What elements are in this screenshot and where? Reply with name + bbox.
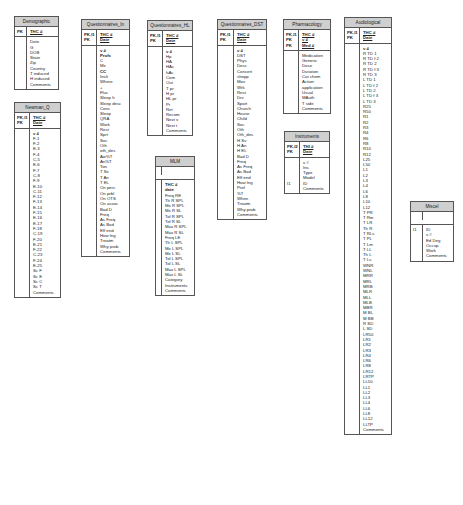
key-flag: PK	[347, 35, 358, 40]
table-keys	[411, 212, 453, 225]
table-field: Comments	[30, 82, 57, 87]
table-keys: PK,I1 PK THC # Date	[148, 31, 192, 47]
key-field: Date	[363, 35, 390, 40]
table-field: Comments	[237, 212, 265, 217]
table-title: Questionnaires_HL	[148, 21, 192, 31]
key-flag: PK	[220, 37, 232, 42]
table-field: Comments	[363, 427, 390, 432]
table-keys: PK,I1 PK THC # Date	[15, 113, 60, 129]
table-audiological[interactable]: Audiological PK,I1 PK THC # Date v #R TD…	[344, 17, 392, 435]
key-field: THC #	[30, 29, 57, 34]
table-keys: PK,I1 PK THC # Date	[82, 30, 129, 46]
table-field: Comments	[426, 253, 452, 258]
table-fields: I1 IDv #Ed DegOccupWorkComments	[411, 225, 453, 261]
table-fields: v #R TD 1R TD f 2R TD 2R TD f 3R TD 3L T…	[345, 44, 391, 435]
key-flag: PK	[150, 38, 161, 43]
table-fields: DateGDOBStateZipCountryT inducedH induce…	[15, 37, 58, 89]
table-instruments[interactable]: Instruments PK,I2 PK THI # Date I1 v #In…	[284, 131, 330, 194]
table-keys: PK,I1 PK THC # Date	[345, 28, 391, 44]
table-field: Comments	[302, 106, 329, 111]
table-field: Comments	[166, 128, 191, 133]
table-fields: v #F-1F-2E-3F-4C-5E-6F-7C-8F-9E-10C-11F-…	[15, 129, 60, 297]
table-miscel[interactable]: Miscel I1 IDv #Ed DegOccupWorkComments	[410, 201, 454, 262]
table-title: Audiological	[345, 18, 391, 28]
table-title: Miscel	[411, 202, 453, 212]
table-fields: v #ProfsCMxCCInsltWhere+FlucSleep hSleep…	[82, 46, 129, 257]
table-title: Questionnaires_In	[82, 20, 129, 30]
table-fields: v #DSTPhysDescConcertshoppMovWrkRestDrvS…	[218, 46, 266, 220]
field-flag: I1	[413, 227, 421, 232]
table-fields: v #HpHAHAchAcComOutT prH prHL prPrRetRec…	[148, 47, 192, 136]
key-field: Date	[166, 38, 191, 43]
table-fields: I1 v #InsTypeModelIDComments	[285, 158, 329, 194]
table-field: Comments	[165, 288, 193, 293]
table-demographic[interactable]: Demographic PK THC # DateGDOBStateZipCou…	[14, 16, 59, 90]
table-keys: PK,I1 PK PK THC # v # Med #	[284, 30, 330, 51]
key-flag: PK	[286, 43, 297, 48]
key-field: Date	[33, 120, 59, 125]
table-field: Comments	[33, 290, 59, 295]
key-field: Date	[100, 37, 128, 42]
key-field: Date	[237, 37, 265, 42]
table-fields: MedicationGenericDoseDurationCat chemAct…	[284, 51, 330, 113]
table-questionnaires-dst[interactable]: Questionnaires_DST PK,I1 PK THC # Date v…	[217, 19, 267, 220]
table-fields: THC #dateFreq RETh R SPLMx R SPLMx R SLT…	[156, 180, 194, 295]
table-title: MLM	[156, 157, 194, 167]
field-flag	[287, 186, 298, 191]
table-questionnaires-in[interactable]: Questionnaires_In PK,I1 PK THC # Date v …	[81, 19, 130, 257]
key-field: Date	[303, 149, 328, 154]
key-field: Med #	[302, 43, 329, 48]
table-keys	[156, 167, 194, 180]
key-flag: PK	[17, 29, 25, 34]
table-newman-q[interactable]: Newman_Q PK,I1 PK THC # Date v #F-1F-2E-…	[14, 102, 61, 298]
table-keys: PK,I1 PK THC # Date	[218, 30, 266, 46]
table-title: Demographic	[15, 17, 58, 27]
table-field: Comments	[303, 186, 328, 191]
key-flag: PK	[84, 37, 95, 42]
table-pharmacology[interactable]: Pharmacology PK,I1 PK PK THC # v # Med #…	[283, 19, 331, 114]
table-keys: PK THC #	[15, 27, 58, 37]
table-title: Instruments	[285, 132, 329, 142]
key-flag: PK	[287, 149, 298, 154]
table-title: Questionnaires_DST	[218, 20, 266, 30]
table-mlm[interactable]: MLM THC #dateFreq RETh R SPLMx R SPLMx R…	[155, 156, 195, 296]
table-questionnaires-hl[interactable]: Questionnaires_HL PK,I1 PK THC # Date v …	[147, 20, 193, 136]
table-title: Newman_Q	[15, 103, 60, 113]
key-flag: PK	[17, 120, 28, 125]
table-title: Pharmacology	[284, 20, 330, 30]
table-keys: PK,I2 PK THI # Date	[285, 142, 329, 158]
table-field: Comments	[100, 249, 128, 254]
